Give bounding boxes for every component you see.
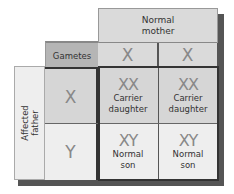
row-divider <box>45 123 218 124</box>
offspring-cell: XY Normal son <box>98 124 158 180</box>
father-label-cell: Affected father <box>14 66 45 180</box>
genotype: XX <box>178 77 198 93</box>
father-label-line1: Affected <box>20 105 30 141</box>
phenotype-line2: daughter <box>169 104 208 115</box>
gametes-label: Gametes <box>45 41 98 68</box>
mother-gamete-1: X <box>98 43 158 67</box>
genotype: XX <box>118 77 138 93</box>
offspring-cell: XX Carrier daughter <box>98 67 158 124</box>
genotype: XY <box>119 133 138 149</box>
phenotype-line1: Carrier <box>113 93 142 104</box>
mother-label-line2: mother <box>142 26 175 37</box>
offspring-cell: XY Normal son <box>158 124 218 180</box>
phenotype-line1: Normal <box>173 149 204 160</box>
phenotype-line1: Carrier <box>173 93 202 104</box>
phenotype-line2: son <box>180 160 195 171</box>
father-label-line2: father <box>30 105 40 141</box>
drop-shadow-right <box>218 14 224 186</box>
father-label: Affected father <box>20 105 40 141</box>
offspring-cell: XX Carrier daughter <box>158 67 218 124</box>
phenotype-line2: son <box>120 160 135 171</box>
father-gamete-x: X <box>45 67 98 124</box>
column-divider <box>158 43 159 180</box>
phenotype-line1: Normal <box>113 149 144 160</box>
mother-gamete-2: X <box>158 43 218 67</box>
genotype: XY <box>179 133 198 149</box>
father-gamete-y: Y <box>45 124 98 180</box>
phenotype-line2: daughter <box>109 104 148 115</box>
mother-header: Normal mother <box>98 8 218 44</box>
drop-shadow-bottom <box>18 180 224 186</box>
mother-label-line1: Normal <box>142 15 175 26</box>
